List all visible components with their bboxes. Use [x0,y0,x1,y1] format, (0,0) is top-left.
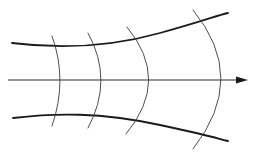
beam-diagram [0,0,256,153]
wavefront-1 [52,36,60,126]
diagram-canvas [0,0,256,153]
lower-boundary [13,115,228,141]
upper-boundary [12,13,228,46]
arrowhead-icon [236,77,248,84]
